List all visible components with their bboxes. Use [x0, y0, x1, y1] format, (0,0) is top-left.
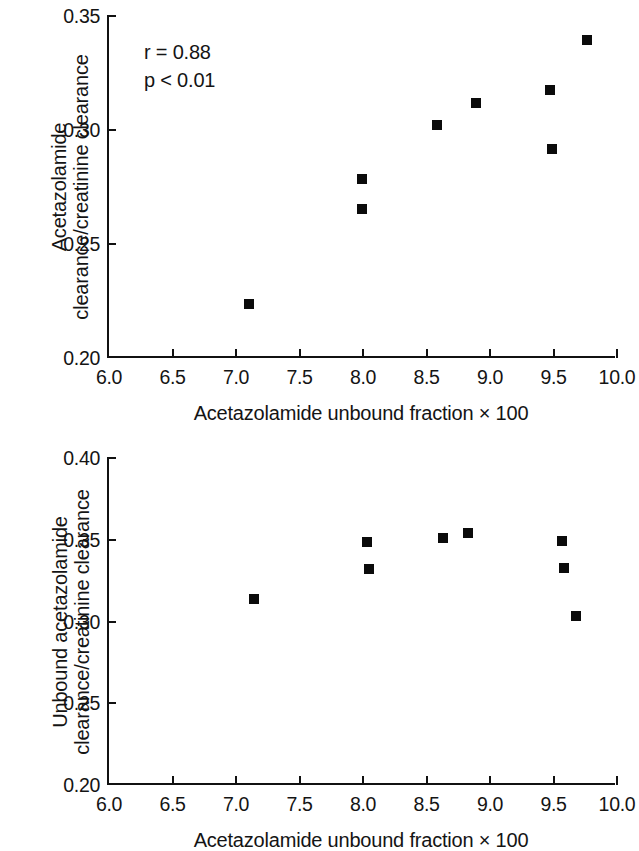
x-axis-tick-mark	[426, 776, 428, 785]
y-axis-tick-label: 0.20	[63, 347, 100, 370]
chart-panel-bottom: Unbound acetazolamide clearance/creatini…	[0, 428, 639, 846]
data-point	[559, 563, 569, 573]
x-axis-tick-label: 8.5	[413, 366, 439, 389]
x-axis-tick-label: 6.5	[159, 793, 185, 816]
data-point	[357, 174, 367, 184]
x-axis-tick-label: 9.0	[477, 793, 503, 816]
x-axis-tick-mark	[299, 776, 301, 785]
data-point	[249, 594, 259, 604]
y-axis-tick-mark	[107, 621, 116, 623]
x-axis-tick-label: 8.5	[413, 793, 439, 816]
data-point	[545, 85, 555, 95]
plot-area-top: r = 0.88 p < 0.01 0.200.250.300.356.06.5…	[107, 16, 615, 358]
x-axis-tick-label: 8.0	[350, 366, 376, 389]
x-axis-title-bottom: Acetazolamide unbound fraction × 100	[107, 829, 615, 851]
pvalue: p < 0.01	[144, 66, 215, 94]
y-axis-tick-label: 0.25	[63, 233, 100, 256]
data-point	[362, 537, 372, 547]
y-axis-tick-mark	[107, 243, 116, 245]
x-axis-tick-mark	[362, 349, 364, 358]
x-axis-tick-mark	[489, 776, 491, 785]
y-axis-tick-mark	[107, 129, 116, 131]
x-axis-tick-label: 9.5	[540, 366, 566, 389]
y-axis-title-line-1: Acetazolamide	[48, 0, 70, 388]
data-point	[244, 299, 254, 309]
y-axis-tick-label: 0.35	[63, 528, 100, 551]
x-axis-tick-mark	[362, 776, 364, 785]
x-axis-tick-mark	[235, 349, 237, 358]
x-axis-tick-mark	[172, 776, 174, 785]
data-point	[582, 35, 592, 45]
y-axis-tick-mark	[107, 457, 116, 459]
chart-panel-top: Acetazolamide clearance/creatinine clear…	[0, 0, 639, 418]
x-axis-tick-mark	[616, 349, 618, 358]
x-axis-tick-label: 7.0	[223, 793, 249, 816]
y-axis-tick-mark	[107, 702, 116, 704]
y-axis-tick-label: 0.30	[63, 610, 100, 633]
x-axis-tick-mark	[616, 776, 618, 785]
y-axis-tick-label: 0.25	[63, 692, 100, 715]
x-axis-tick-label: 6.0	[96, 793, 122, 816]
plot-area-bottom: 0.200.250.300.350.406.06.57.07.58.08.59.…	[107, 458, 615, 785]
x-axis-tick-mark	[172, 349, 174, 358]
x-axis-tick-mark	[235, 776, 237, 785]
x-axis-title-top: Acetazolamide unbound fraction × 100	[107, 402, 615, 425]
data-point	[463, 528, 473, 538]
x-axis-tick-label: 10.0	[599, 793, 636, 816]
data-point	[557, 536, 567, 546]
x-axis-tick-label: 7.0	[223, 366, 249, 389]
x-axis-tick-label: 7.5	[286, 366, 312, 389]
data-point	[357, 204, 367, 214]
data-point	[471, 98, 481, 108]
data-point	[547, 144, 557, 154]
stats-annotation: r = 0.88 p < 0.01	[144, 38, 215, 95]
data-point	[438, 533, 448, 543]
x-axis-tick-label: 9.5	[540, 793, 566, 816]
y-axis-tick-label: 0.30	[63, 119, 100, 142]
x-axis-tick-mark	[553, 776, 555, 785]
x-axis-tick-label: 6.0	[96, 366, 122, 389]
x-axis-tick-label: 6.5	[159, 366, 185, 389]
x-axis-tick-label: 9.0	[477, 366, 503, 389]
data-point	[364, 564, 374, 574]
y-axis-tick-label: 0.20	[63, 774, 100, 797]
x-axis-tick-label: 7.5	[286, 793, 312, 816]
x-axis-tick-mark	[299, 349, 301, 358]
x-axis-tick-label: 8.0	[350, 793, 376, 816]
x-axis-tick-mark	[426, 349, 428, 358]
y-axis-tick-mark	[107, 15, 116, 17]
y-axis-title-line-2: clearance/creatinine clearance	[70, 0, 92, 388]
y-axis-tick-mark	[107, 539, 116, 541]
x-axis-tick-mark	[489, 349, 491, 358]
x-axis-tick-mark	[553, 349, 555, 358]
data-point	[432, 120, 442, 130]
data-point	[571, 611, 581, 621]
correlation-value: r = 0.88	[144, 38, 215, 66]
x-axis-tick-label: 10.0	[599, 366, 636, 389]
y-axis-tick-label: 0.40	[63, 447, 100, 470]
y-axis-tick-label: 0.35	[63, 5, 100, 28]
y-axis-title-top: Acetazolamide clearance/creatinine clear…	[48, 0, 92, 388]
